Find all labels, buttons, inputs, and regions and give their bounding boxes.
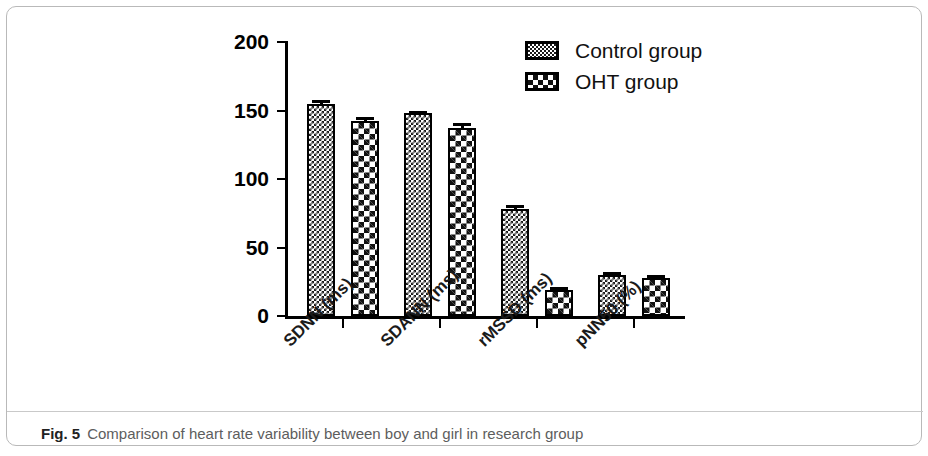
legend-swatch-oht-icon — [525, 72, 559, 91]
legend-item-oht: OHT group — [525, 66, 775, 97]
legend-label-oht: OHT group — [575, 71, 679, 92]
bar-control-group — [307, 104, 335, 316]
error-bar-cap — [453, 123, 471, 126]
chart-legend: Control group OHT group — [525, 35, 775, 97]
legend-label-control: Control group — [575, 40, 702, 61]
error-bar-cap — [409, 111, 427, 114]
error-bar-cap — [603, 272, 621, 275]
bars-layer — [7, 7, 923, 407]
bar-oht-group — [545, 290, 573, 316]
figure-caption-label: Fig. 5 — [41, 425, 80, 442]
error-bar-cap — [506, 205, 524, 208]
figure-caption-text: Comparison of heart rate variability bet… — [87, 425, 583, 442]
bar-oht-group — [642, 278, 670, 316]
figure-frame: 050100150200 SDNN (ms)SDANN (ms)rMSSD (m… — [6, 6, 922, 446]
chart-plot-area: 050100150200 SDNN (ms)SDANN (ms)rMSSD (m… — [7, 7, 923, 407]
caption-divider — [7, 411, 923, 412]
error-bar-cap — [312, 100, 330, 103]
legend-item-control: Control group — [525, 35, 775, 66]
error-bar-cap — [356, 117, 374, 120]
legend-swatch-control-icon — [525, 41, 559, 60]
error-bar-cap — [550, 287, 568, 290]
error-bar-cap — [647, 275, 665, 278]
figure-caption: Fig. 5Comparison of heart rate variabili… — [41, 425, 901, 443]
